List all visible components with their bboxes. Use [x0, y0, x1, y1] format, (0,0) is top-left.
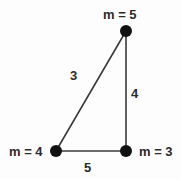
- vertex-dot-bottom-right: [120, 145, 132, 157]
- vertex-label-top: m = 5: [103, 8, 137, 21]
- vertex-dot-top: [120, 25, 132, 37]
- edge-label-hypotenuse: 3: [70, 69, 77, 82]
- vertex-label-bottom-right: m = 3: [139, 145, 173, 158]
- vertex-label-bottom-left: m = 4: [9, 145, 43, 158]
- triangle-figure: m = 5 m = 4 m = 3 3 4 5: [0, 0, 181, 179]
- vertex-dot-bottom-left: [50, 145, 62, 157]
- edge-label-vertical: 4: [131, 87, 138, 100]
- edge-hypotenuse-line: [56, 31, 126, 151]
- edge-label-base: 5: [84, 161, 91, 174]
